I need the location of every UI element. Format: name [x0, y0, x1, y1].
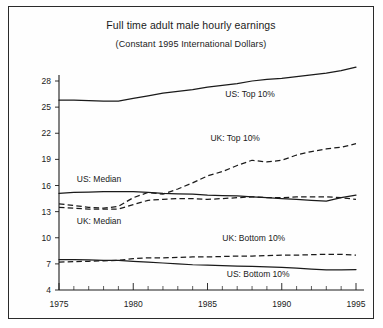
x-tick-label: 1980: [124, 299, 143, 309]
y-tick-label: 25: [42, 102, 52, 112]
y-tick-label: 22: [42, 128, 52, 138]
y-axis-tick-labels: 4710131619222528: [42, 76, 52, 295]
x-tick-label: 1985: [198, 299, 217, 309]
y-tick-label: 7: [46, 259, 51, 269]
x-axis-tick-labels: 19751980198519901995: [50, 299, 366, 309]
y-tick-label: 4: [46, 285, 51, 295]
tick-marks: [55, 81, 356, 290]
x-tick-label: 1995: [347, 299, 366, 309]
series-line-us-top-10: [59, 67, 356, 101]
series-label-uk-median: UK: Median: [77, 216, 122, 226]
y-tick-label: 16: [42, 181, 52, 191]
x-tick-label: 1975: [50, 299, 69, 309]
y-tick-label: 19: [42, 154, 52, 164]
series-line-uk-median: [59, 197, 356, 209]
chart-figure: Full time adult male hourly earnings (Co…: [8, 6, 374, 319]
series-label-us-bottom-10: US: Bottom 10%: [227, 269, 290, 279]
series-label-uk-bottom-10: UK: Bottom 10%: [222, 233, 285, 243]
x-tick-label: 1990: [272, 299, 291, 309]
y-tick-label: 10: [42, 233, 52, 243]
series-inline-labels: US: Top 10%UK: Top 10%US: MedianUK: Medi…: [77, 89, 290, 279]
y-tick-label: 13: [42, 207, 52, 217]
series-label-us-top-10: US: Top 10%: [225, 89, 275, 99]
data-series-lines: [59, 67, 356, 270]
series-label-us-median: US: Median: [77, 174, 122, 184]
y-tick-label: 28: [42, 76, 52, 86]
chart-plot-area: 4710131619222528 19751980198519901995 US…: [9, 7, 375, 320]
series-label-uk-top-10: UK: Top 10%: [210, 133, 260, 143]
